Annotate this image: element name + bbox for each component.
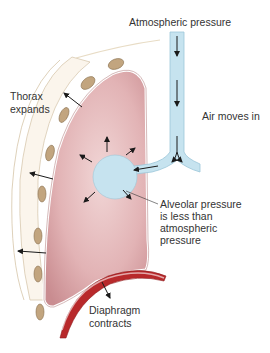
label-alveolar-line4: pressure — [160, 234, 201, 246]
label-alveolar-line3: atmospheric — [160, 222, 217, 234]
rib-7 — [34, 266, 42, 282]
rib-5 — [38, 186, 46, 202]
label-air-moves-in: Air moves in — [202, 110, 260, 122]
label-atmospheric-pressure: Atmospheric pressure — [129, 16, 231, 28]
label-thorax-expands-line1: Thorax — [10, 90, 43, 102]
label-alveolar-line1: Alveolar pressure — [160, 198, 242, 210]
label-diaphragm-line2: contracts — [89, 317, 132, 329]
alveolus — [93, 155, 137, 199]
label-thorax-expands-line2: expands — [10, 103, 50, 115]
rib-8 — [36, 304, 44, 320]
rib-4 — [44, 144, 56, 162]
rib-6 — [34, 228, 42, 244]
label-alveolar-line2: is less than — [160, 210, 213, 222]
inspiration-diagram — [0, 0, 270, 353]
label-diaphragm-line1: Diaphragm — [89, 304, 140, 316]
